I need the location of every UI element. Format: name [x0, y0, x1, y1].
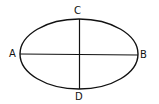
label-d: D — [75, 92, 83, 102]
label-c: C — [74, 6, 81, 16]
label-a: A — [9, 49, 16, 59]
label-b: B — [140, 50, 147, 60]
